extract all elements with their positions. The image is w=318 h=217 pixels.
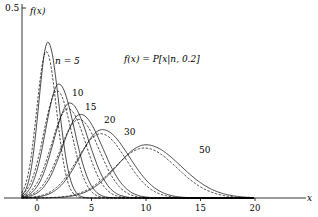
x-tick-label-20: 20	[250, 203, 261, 213]
curve-label-n20: 20	[104, 115, 116, 125]
x-tick-label-5: 5	[89, 203, 94, 213]
curve-solid-15	[22, 103, 254, 198]
curve-solid-10	[22, 84, 254, 198]
curve-label-n10: 10	[72, 88, 84, 98]
x-tick-label-15: 15	[195, 203, 206, 213]
curve-label-n15: 15	[85, 102, 97, 112]
y-axis-label: f(x)	[29, 6, 46, 16]
curve-solid-50	[22, 145, 254, 198]
binomial-chart: 05101520 0.5 f(x) x f(x) = P[x|n, 0.2] n…	[0, 0, 318, 217]
x-tick-label-10: 10	[141, 203, 152, 213]
curve-dashed-30	[22, 134, 254, 198]
curve-label-n30: 30	[124, 127, 136, 137]
x-tick-label-0: 0	[34, 203, 39, 213]
y-tick-label: 0.5	[5, 3, 20, 13]
curve-label-n50: 50	[199, 145, 211, 155]
curve-dashed-50	[22, 148, 254, 198]
curve-label-n5: n = 5	[55, 56, 80, 66]
curve-solid-20	[22, 114, 254, 198]
x-axis-label: x	[307, 193, 312, 203]
curve-dashed-15	[22, 109, 254, 198]
x-ticks-group: 05101520	[34, 198, 260, 213]
formula-annotation: f(x) = P[x|n, 0.2]	[123, 54, 200, 65]
